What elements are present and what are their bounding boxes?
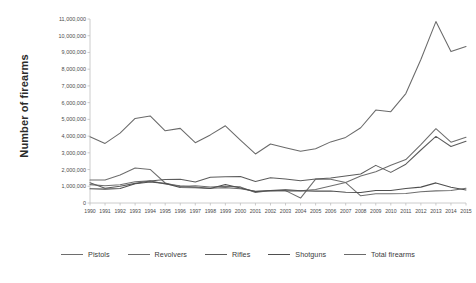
legend-label: Rifles	[232, 250, 250, 259]
legend-line-icon	[344, 254, 366, 255]
legend-item-rifles[interactable]: Rifles	[205, 250, 250, 259]
legend-label: Pistols	[88, 250, 110, 259]
legend-label: Shotguns	[295, 250, 326, 259]
x-axis-ticks: 1990199119921993199419951996199719981999…	[0, 0, 476, 283]
legend-item-shotguns[interactable]: Shotguns	[268, 250, 326, 259]
x-tick-label: 2015	[457, 208, 475, 214]
legend-line-icon	[61, 254, 83, 255]
legend-label: Total firearms	[371, 250, 415, 259]
chart-legend: PistolsRevolversRiflesShotgunsTotal fire…	[0, 250, 476, 259]
chart-container: Number of firearms 11,000,00010,000,0009…	[0, 0, 476, 283]
legend-line-icon	[205, 254, 227, 255]
legend-line-icon	[268, 254, 290, 255]
legend-item-total-firearms[interactable]: Total firearms	[344, 250, 415, 259]
legend-line-icon	[128, 254, 150, 255]
legend-item-pistols[interactable]: Pistols	[61, 250, 110, 259]
legend-label: Revolvers	[155, 250, 187, 259]
legend-item-revolvers[interactable]: Revolvers	[128, 250, 187, 259]
